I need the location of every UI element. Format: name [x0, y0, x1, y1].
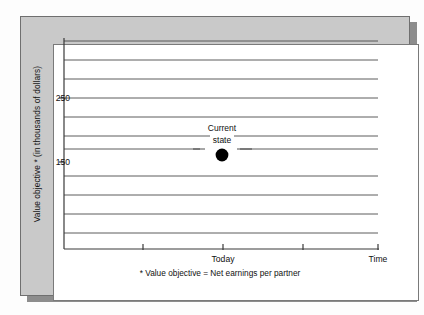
- annotation-line-2: state: [210, 135, 234, 147]
- y-tick-label-150: 150: [44, 157, 70, 167]
- annotation-current-state: Current state: [192, 123, 252, 146]
- figure-page: Value objective * (in thousands of dolla…: [0, 0, 424, 315]
- y-axis-title: Value objective * (in thousands of dolla…: [32, 44, 42, 244]
- annotation-line-1: Current: [192, 123, 252, 135]
- chart-footnote: * Value objective = Net earnings per par…: [70, 268, 370, 278]
- x-axis-title: Time: [348, 254, 408, 264]
- x-tick-label-today: Today: [193, 254, 253, 264]
- y-tick-label-250: 250: [44, 93, 70, 103]
